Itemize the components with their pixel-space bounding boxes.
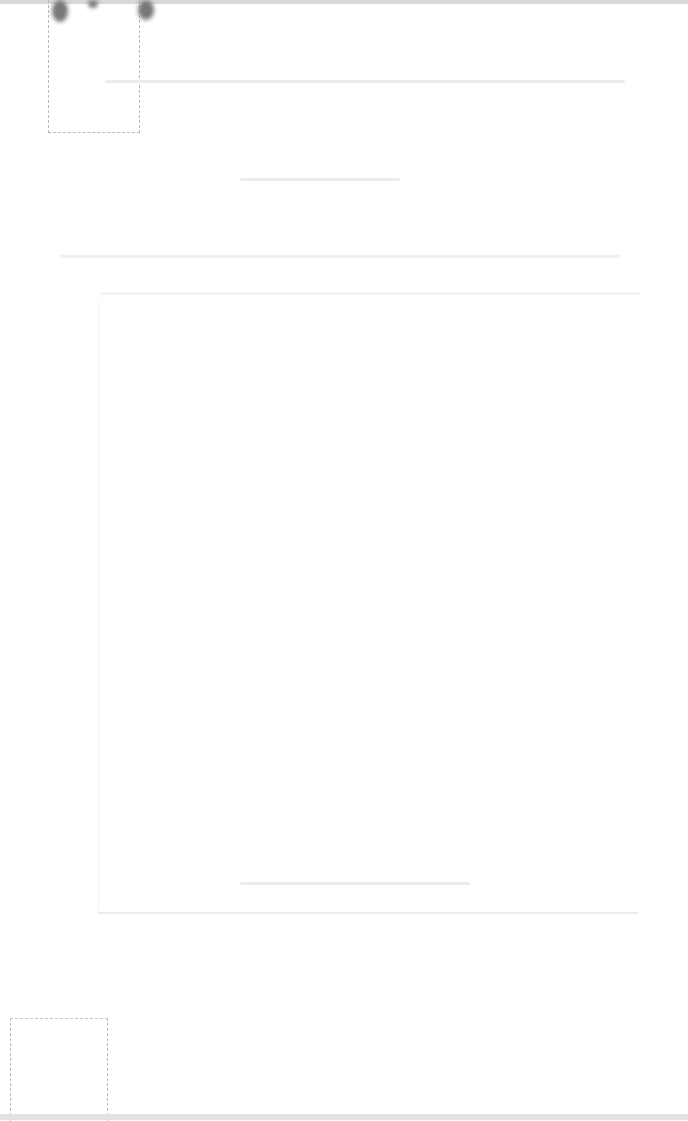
- scan-bottom-edge: [0, 1114, 688, 1120]
- faint-subtitle-line: [100, 292, 640, 295]
- faint-heading-line: [240, 178, 400, 181]
- ink-blot: [52, 0, 68, 22]
- binding-tab-mark-bottom: [10, 1018, 108, 1121]
- ink-blot: [88, 0, 98, 8]
- frame-rule: [98, 912, 638, 914]
- faint-text-line: [105, 80, 625, 83]
- ink-blot: [138, 0, 154, 20]
- margin-rule: [98, 300, 99, 910]
- faint-footer-line: [240, 882, 470, 885]
- faint-title-line: [60, 255, 620, 258]
